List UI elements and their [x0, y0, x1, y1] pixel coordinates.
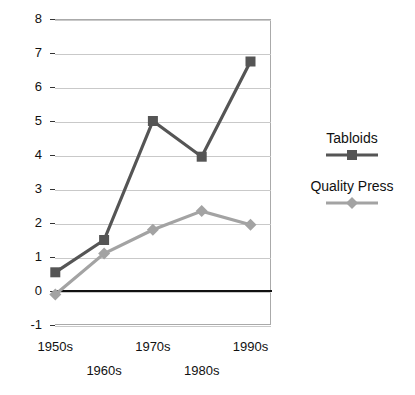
- zero-baseline: [55, 290, 272, 292]
- gridline-0: [55, 292, 271, 293]
- y-tick-label: 4: [2, 148, 42, 161]
- gridline-3: [55, 190, 271, 191]
- legend-entry-quality-press: Quality Press: [292, 178, 412, 210]
- y-tick-label: 8: [2, 12, 42, 25]
- legend-label-tabloids: Tabloids: [292, 130, 412, 147]
- y-tick-label: -1: [2, 318, 42, 331]
- x-tick-label-1950s: 1950s: [25, 340, 85, 354]
- x-tick-label-1980s: 1980s: [172, 364, 232, 378]
- chart-root: 876543210-1 1950s1960s1970s1980s1990s Ta…: [0, 0, 415, 395]
- x-tick-label-1970s: 1970s: [123, 340, 183, 354]
- plot-area: [55, 19, 271, 325]
- gridline-7: [55, 54, 271, 55]
- x-tick-label-1990s: 1990s: [221, 340, 281, 354]
- gridline-1: [55, 258, 271, 259]
- gridline-4: [55, 156, 271, 157]
- y-tick-label: 0: [2, 284, 42, 297]
- y-tick-mark-4: [50, 155, 55, 156]
- legend-sample-tabloids: [292, 148, 412, 162]
- gridline-6: [55, 88, 271, 89]
- y-tick-mark-6: [50, 87, 55, 88]
- x-tick-label-1960s: 1960s: [74, 364, 134, 378]
- y-tick-mark-8: [50, 19, 55, 20]
- y-tick-mark-2: [50, 223, 55, 224]
- legend-entry-tabloids: Tabloids: [292, 130, 412, 162]
- gridline--1: [55, 326, 271, 327]
- y-tick-mark--1: [50, 325, 55, 326]
- y-tick-label: 6: [2, 80, 42, 93]
- chart-legend: Tabloids Quality Press: [292, 130, 412, 226]
- legend-label-quality-press: Quality Press: [292, 178, 412, 195]
- gridline-2: [55, 224, 271, 225]
- gridline-8: [55, 20, 271, 21]
- y-tick-mark-1: [50, 257, 55, 258]
- y-tick-label: 7: [2, 46, 42, 59]
- y-tick-mark-3: [50, 189, 55, 190]
- y-tick-mark-5: [50, 121, 55, 122]
- y-tick-label: 1: [2, 250, 42, 263]
- y-tick-label: 2: [2, 216, 42, 229]
- y-tick-label: 3: [2, 182, 42, 195]
- y-tick-label: 5: [2, 114, 42, 127]
- y-tick-mark-7: [50, 53, 55, 54]
- legend-sample-quality-press: [292, 196, 412, 210]
- gridline-5: [55, 122, 271, 123]
